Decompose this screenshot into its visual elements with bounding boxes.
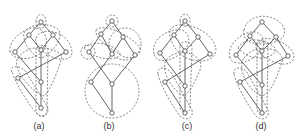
lattice-edge [236,36,250,55]
lattice-node [51,33,55,37]
panel-d: (d) [229,16,294,131]
lattice-node [183,19,187,23]
lattice-node [89,80,93,84]
lattice-node [87,50,91,54]
lattice-edge [123,37,135,55]
lattice-node [172,33,176,37]
lattice-node [183,49,187,53]
lattice-edge [91,82,112,113]
lattice-node [39,106,43,110]
lattice-node [16,76,20,80]
lattice-node [13,50,17,54]
panel-a: (a) [10,15,72,132]
lattice-edge [198,37,210,54]
panel-b: (b) [81,15,141,131]
lattice-node [39,20,43,24]
lattice-node [27,33,31,37]
panel-c: (c) [153,14,216,131]
lattice-node [196,35,200,39]
lattice-node [110,52,114,56]
lattice-edge [29,35,41,50]
lattice-node [286,54,290,58]
lattice-node [260,111,264,115]
cluster-outline [244,16,285,44]
lattice-node [234,53,238,57]
lattice-edge [89,52,112,84]
lattice-node [121,35,125,39]
lattice-edge [174,21,185,35]
lattice-edge [160,35,174,53]
lattice-edge [91,54,112,82]
lattice-node [274,35,278,39]
panel-label: (c) [182,121,193,131]
lattice-node [110,19,114,23]
lattice-node [260,49,264,53]
lattice-node [158,51,162,55]
lattice-node [208,52,212,56]
lattice-node [39,80,43,84]
lattice-node [183,111,187,115]
lattice-edge [41,22,53,35]
panel-label: (a) [34,121,45,131]
lattice-node [110,82,114,86]
lattice-node [238,80,242,84]
lattice-edge [15,35,29,52]
lattice-figure: (a) (b) (c) (d) [0,0,308,140]
lattice-edge [41,35,53,50]
lattice-node [183,84,187,88]
lattice-node [133,53,137,57]
lattice-edge [112,21,123,37]
lattice-edge [112,55,135,84]
panel-label: (b) [104,121,115,131]
lattice-node [64,50,68,54]
lattice-edge [185,21,198,37]
lattice-node [163,80,167,84]
lattice-edge [276,37,288,56]
panel-label: (d) [256,121,267,131]
lattice-edge [18,52,66,78]
lattice-edge [112,37,123,54]
lattice-node [260,20,264,24]
cluster-outline [24,25,60,58]
lattice-node [99,32,103,36]
lattice-edge [262,22,276,37]
lattice-edge [240,56,288,82]
lattice-edge [53,35,66,52]
lattice-node [260,83,264,87]
lattice-node [248,34,252,38]
cluster-outline [16,48,62,96]
lattice-node [39,48,43,52]
lattice-edge [250,22,262,36]
lattice-node [110,111,114,115]
lattice-edge [185,37,198,51]
